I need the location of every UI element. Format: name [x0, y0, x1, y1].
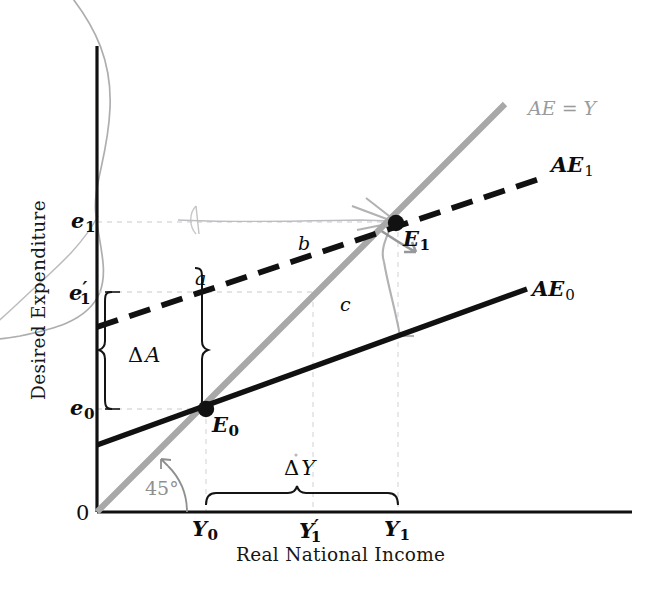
- y-tick-label-e1-prime: e′1: [69, 280, 91, 307]
- delta-y-variable: Y: [301, 456, 315, 480]
- point-base-E0: E: [212, 412, 228, 437]
- brace-label-delta-a: ΔA: [128, 345, 160, 366]
- brace-delta-a-left: [99, 292, 112, 409]
- y-tick-sub-e1: 1: [85, 218, 96, 236]
- x-tick-sub-Y0: 0: [208, 526, 219, 544]
- angle-label-45: 45°: [145, 479, 179, 498]
- origin-label: 0: [76, 503, 89, 524]
- curve-sub-ae1: 1: [584, 162, 594, 180]
- area-label-b: b: [298, 234, 310, 253]
- curve-label-ae0: AE0: [532, 278, 575, 303]
- x-tick-sub-Y1: 1: [400, 526, 411, 544]
- x-tick-label-Y0: Y0: [192, 518, 218, 543]
- brace-delta-y: [206, 486, 398, 505]
- x-axis-title: Real National Income: [236, 546, 445, 565]
- delta-a-symbol: Δ: [128, 343, 143, 367]
- x-tick-base-Y0: Y: [192, 516, 207, 541]
- point-marker-E1: [388, 215, 404, 231]
- point-sub-E0: 0: [229, 422, 240, 440]
- curve-base-ae1: AE: [551, 152, 583, 177]
- x-tick-base-Y1: Y: [384, 516, 399, 541]
- point-label-E0: E0: [212, 414, 239, 439]
- y-tick-base-e0: e: [70, 395, 83, 420]
- y-tick-sub-e0: 0: [84, 405, 95, 423]
- pencil-tick-left: [196, 206, 199, 234]
- aggregate-expenditure-figure: Desired Expenditure Real National Income…: [0, 0, 656, 594]
- y-tick-label-e0: e0: [70, 397, 94, 422]
- y-tick-label-e1: e1: [71, 210, 95, 235]
- pencil-scribble-at-e1: [352, 198, 414, 336]
- y-tick-sub-e1-prime: 1: [80, 290, 91, 308]
- curve-label-ae-equals-y: AE = Y: [528, 99, 596, 118]
- curve-base-ae0: AE: [532, 276, 564, 301]
- point-base-E1: E: [403, 226, 419, 251]
- ae-equals-y-line: [97, 104, 505, 512]
- pencil-guide-to-e1: [178, 220, 392, 222]
- brace-label-delta-y: ΔY: [284, 458, 315, 479]
- pencil-s-curve-annotation: [0, 0, 110, 340]
- y-axis-title: Desired Expenditure: [30, 200, 49, 400]
- curve-sub-ae0: 0: [565, 286, 575, 304]
- point-label-E1: E1: [403, 228, 430, 253]
- x-tick-sub-Y1-prime: 1: [311, 528, 322, 546]
- delta-y-symbol: Δ: [284, 456, 299, 480]
- point-sub-E1: 1: [420, 236, 431, 254]
- delta-a-variable: A: [145, 343, 160, 367]
- x-tick-label-Y1-prime: Y′1: [299, 518, 321, 545]
- y-tick-base-e1: e: [71, 208, 84, 233]
- x-tick-label-Y1: Y1: [384, 518, 410, 543]
- ae0-line: [97, 289, 527, 445]
- curve-label-ae1: AE1: [551, 154, 594, 179]
- area-label-a: a: [195, 269, 206, 288]
- area-label-c: c: [340, 295, 351, 314]
